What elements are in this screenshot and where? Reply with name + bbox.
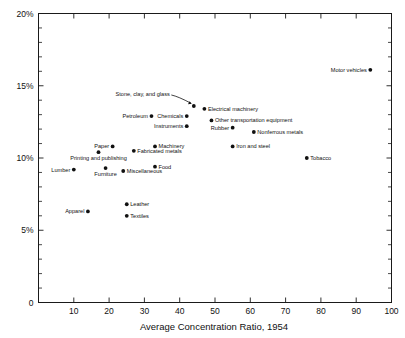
label-leader-line (171, 95, 191, 103)
y-tick-label-20: 20% (16, 9, 33, 19)
data-points-layer: Motor vehiclesStone, clay, and glassElec… (51, 67, 372, 219)
scatter-chart: 10203040506070809010005%10%15%20% Motor … (0, 0, 405, 338)
data-point[interactable]: Paper (94, 143, 114, 149)
point-label: Other transportation equipment (215, 117, 293, 123)
data-point[interactable]: Motor vehicles (331, 67, 372, 73)
data-point[interactable]: Instruments (154, 123, 189, 129)
point-marker (185, 124, 189, 128)
point-label: Electrical machinery (208, 106, 258, 112)
point-marker (185, 114, 189, 118)
data-point[interactable]: Lumber (51, 167, 75, 173)
point-label: Rubber (211, 125, 229, 131)
point-label: Furniture (94, 171, 116, 177)
data-point[interactable]: Stone, clay, and glass (116, 91, 196, 107)
point-marker (125, 214, 129, 218)
point-label: Paper (94, 143, 109, 149)
point-marker (203, 107, 207, 111)
axis-layer: 10203040506070809010005%10%15%20% (16, 9, 398, 316)
x-tick-label-30: 30 (140, 306, 150, 316)
y-tick-label-0: 0 (29, 298, 34, 308)
y-tick-label-10: 10% (16, 153, 33, 163)
x-tick-label-70: 70 (281, 306, 291, 316)
point-marker (210, 119, 214, 123)
y-tick-label-15: 15% (16, 81, 33, 91)
point-label: Apparel (65, 208, 84, 214)
data-point[interactable]: Iron and steel (231, 143, 270, 149)
point-marker (368, 68, 372, 72)
x-tick-label-100: 100 (384, 306, 398, 316)
data-point[interactable]: Textiles (125, 213, 149, 219)
x-tick-label-50: 50 (210, 306, 220, 316)
data-point[interactable]: Rubber (211, 125, 235, 131)
data-point[interactable]: Electrical machinery (203, 106, 259, 112)
data-point[interactable]: Petroleum (122, 113, 153, 119)
data-point[interactable]: Miscellaneous (121, 168, 162, 174)
point-label: Motor vehicles (331, 67, 367, 73)
y-tick-label-5: 5% (21, 225, 34, 235)
data-point[interactable]: Fabricated metals (132, 148, 182, 154)
point-label: Fabricated metals (137, 148, 182, 154)
point-label: Chemicals (157, 113, 183, 119)
point-label: Iron and steel (236, 143, 270, 149)
x-axis-title: Average Concentration Ratio, 1954 (140, 321, 288, 332)
data-point[interactable]: Apparel (65, 208, 90, 214)
data-point[interactable]: Other transportation equipment (210, 117, 293, 123)
point-marker (305, 156, 309, 160)
x-tick-label-10: 10 (69, 306, 79, 316)
point-label: Textiles (130, 213, 149, 219)
point-marker (111, 145, 115, 149)
point-marker (104, 166, 108, 170)
data-point[interactable]: Nonferrous metals (252, 129, 303, 135)
point-marker (121, 169, 125, 173)
x-tick-label-40: 40 (175, 306, 185, 316)
data-point[interactable]: Furniture (94, 166, 116, 176)
data-point[interactable]: Chemicals (157, 113, 189, 119)
point-marker (125, 202, 129, 206)
data-point[interactable]: Leather (125, 201, 150, 207)
point-marker (72, 168, 76, 172)
point-label: Petroleum (122, 113, 148, 119)
point-marker (252, 130, 256, 134)
point-marker (192, 104, 196, 108)
x-tick-label-60: 60 (246, 306, 256, 316)
data-point[interactable]: Tobacco (305, 155, 331, 161)
point-label: Instruments (154, 123, 183, 129)
chart-canvas: 10203040506070809010005%10%15%20% Motor … (0, 0, 405, 338)
point-label: Nonferrous metals (257, 129, 303, 135)
point-marker (97, 150, 101, 154)
point-marker (132, 149, 136, 153)
point-marker (86, 210, 90, 214)
point-label: Miscellaneous (127, 168, 163, 174)
point-label: Lumber (51, 167, 70, 173)
point-label: Printing and publishing (70, 155, 127, 161)
point-label: Leather (130, 201, 149, 207)
point-marker (150, 114, 154, 118)
x-tick-label-80: 80 (316, 306, 326, 316)
point-label: Stone, clay, and glass (116, 91, 171, 97)
point-marker (231, 126, 235, 130)
data-point[interactable]: Printing and publishing (70, 150, 127, 160)
point-label: Tobacco (310, 155, 331, 161)
x-tick-label-20: 20 (104, 306, 114, 316)
x-tick-label-90: 90 (351, 306, 361, 316)
point-marker (231, 145, 235, 149)
